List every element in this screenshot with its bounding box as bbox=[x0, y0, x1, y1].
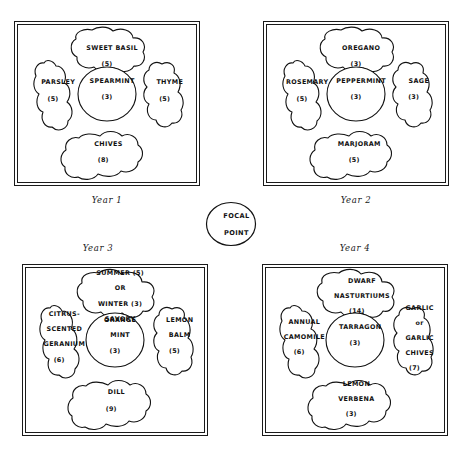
bed-shape-center bbox=[326, 313, 384, 367]
bed-shape-bottom bbox=[61, 132, 143, 180]
focal-point-text: FOCAL POINT bbox=[212, 203, 249, 246]
bed-shape-right bbox=[154, 307, 193, 374]
bed-shape-center bbox=[78, 67, 136, 121]
garden-plot-year-4: DWARF NASTURTIUMS (14) ANNUAL CAMOMILE (… bbox=[262, 264, 448, 436]
bed-shape-center bbox=[327, 67, 385, 121]
garden-plot-year-2: OREGANO (3) ROSEMARY (5) PEPPERMINT (3) … bbox=[263, 21, 449, 186]
bed-outlines bbox=[14, 21, 200, 186]
bed-shape-right bbox=[393, 62, 432, 126]
bed-shape-right bbox=[394, 307, 433, 374]
bed-outlines bbox=[263, 21, 449, 186]
focal-point: FOCAL POINT bbox=[205, 201, 257, 247]
bed-shape-center bbox=[86, 313, 144, 367]
garden-plot-year-3: SUMMER (5) OR WINTER (3) SAVORY CITRUS- … bbox=[22, 264, 208, 436]
bed-shape-left bbox=[34, 61, 72, 130]
bed-shape-top bbox=[317, 269, 394, 317]
year-caption-1: Year 1 bbox=[92, 195, 123, 205]
year-caption-4: Year 4 bbox=[340, 243, 371, 253]
bed-shape-right bbox=[144, 62, 183, 126]
bed-shape-left bbox=[283, 61, 321, 130]
bed-shape-bottom bbox=[68, 381, 151, 430]
bed-shape-top bbox=[71, 27, 144, 72]
bed-shape-bottom bbox=[308, 381, 391, 430]
year-caption-2: Year 2 bbox=[341, 195, 372, 205]
bed-shape-bottom bbox=[310, 132, 392, 180]
bed-shape-top bbox=[77, 269, 154, 317]
bed-outlines bbox=[262, 264, 448, 436]
bed-outlines bbox=[22, 264, 208, 436]
bed-shape-left bbox=[280, 306, 319, 378]
year-caption-3: Year 3 bbox=[83, 243, 114, 253]
bed-shape-left bbox=[40, 306, 79, 378]
garden-plot-year-1: SWEET BASIL (5) PARSLEY (5) SPEARMINT (3… bbox=[14, 21, 200, 186]
bed-shape-top bbox=[320, 27, 393, 72]
